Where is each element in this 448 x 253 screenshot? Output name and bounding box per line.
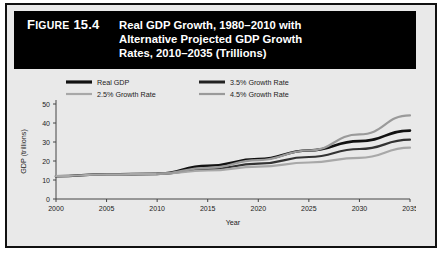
y-tick-label: 0 bbox=[46, 196, 50, 203]
chart-plot-area: Real GDP3.5% Growth Rate2.5% Growth Rate… bbox=[14, 74, 416, 242]
figure-number: 15.4 bbox=[73, 17, 99, 32]
x-tick-label: 2015 bbox=[200, 205, 216, 212]
y-tick-label: 20 bbox=[42, 158, 50, 165]
x-tick-label: 2025 bbox=[301, 205, 317, 212]
figure-label-text: IGURE bbox=[35, 19, 69, 31]
figure-title-banner: FIGURE15.4 Real GDP Growth, 1980–2010 wi… bbox=[14, 11, 416, 69]
x-tick-label: 2010 bbox=[149, 205, 165, 212]
figure-label: FIGURE15.4 bbox=[14, 18, 119, 32]
x-tick-label: 2030 bbox=[352, 205, 368, 212]
x-tick-label: 2000 bbox=[48, 205, 64, 212]
x-axis-title: Year bbox=[226, 218, 241, 227]
line-chart: Real GDP3.5% Growth Rate2.5% Growth Rate… bbox=[14, 74, 416, 242]
legend-label-1: 3.5% Growth Rate bbox=[230, 78, 289, 87]
figure-title-line-3: Rates, 2010–2035 (Trillions) bbox=[119, 46, 302, 60]
figure-title: Real GDP Growth, 1980–2010 with Alternat… bbox=[119, 18, 308, 61]
figure-label-f: F bbox=[27, 17, 35, 32]
y-tick-label: 40 bbox=[42, 120, 50, 127]
figure-title-line-1: Real GDP Growth, 1980–2010 with bbox=[119, 18, 302, 32]
legend-label-2: 2.5% Growth Rate bbox=[97, 90, 156, 99]
y-tick-label: 50 bbox=[42, 101, 50, 108]
y-tick-label: 30 bbox=[42, 139, 50, 146]
y-tick-label: 10 bbox=[42, 177, 50, 184]
x-tick-label: 2020 bbox=[250, 205, 266, 212]
figure-title-line-2: Alternative Projected GDP Growth bbox=[119, 32, 302, 46]
figure-container: FIGURE15.4 Real GDP Growth, 1980–2010 wi… bbox=[0, 0, 448, 253]
legend-label-3: 4.5% Growth Rate bbox=[230, 90, 289, 99]
x-tick-label: 2005 bbox=[99, 205, 115, 212]
x-tick-label: 2035 bbox=[402, 205, 416, 212]
legend-label-0: Real GDP bbox=[97, 78, 130, 87]
y-axis-title: GDP (trillions) bbox=[19, 129, 28, 174]
